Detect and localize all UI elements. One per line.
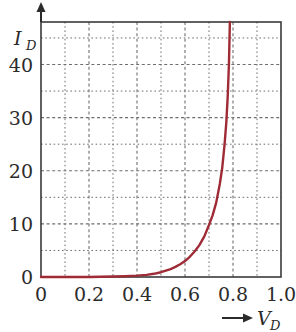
x-tick-label: 0 xyxy=(35,283,47,305)
chart-canvas: 010203040 00.20.40.60.81.0 I D V D xyxy=(0,0,296,332)
x-tick-label: 0.6 xyxy=(170,283,200,305)
x-tick-label: 0.2 xyxy=(74,283,104,305)
y-tick-label: 30 xyxy=(9,107,33,129)
x-tick-label: 0.4 xyxy=(122,283,152,305)
x-tick-label: 0.8 xyxy=(218,283,248,305)
y-tick-label: 0 xyxy=(21,266,33,288)
y-axis-title-symbol: I xyxy=(13,27,22,49)
diode-iv-characteristic-figure: 010203040 00.20.40.60.81.0 I D V D xyxy=(0,0,296,332)
y-tick-label: 40 xyxy=(9,54,33,76)
x-axis-title-subscript: D xyxy=(269,318,281,332)
y-axis-title-subscript: D xyxy=(25,38,37,53)
y-tick-label: 10 xyxy=(9,213,33,235)
x-tick-label: 1.0 xyxy=(266,283,296,305)
y-tick-label: 20 xyxy=(9,160,33,182)
